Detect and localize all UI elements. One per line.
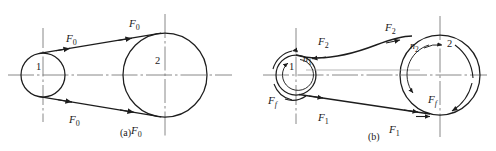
friction-arc-ff-2a-b xyxy=(455,45,473,78)
panel-a: F0 F0 F0 F0 1 2 (a) xyxy=(8,14,232,139)
force-arrow-lower-left-a xyxy=(58,100,72,102)
force-label-b-3: F1 xyxy=(388,123,400,138)
panel-caption-a: (a) xyxy=(120,127,131,139)
force-label-b-0: F2 xyxy=(317,35,329,50)
force-label-a-0: F0 xyxy=(65,32,77,47)
friction-label-b-right: Ff xyxy=(427,93,439,108)
force-label-a-1: F0 xyxy=(128,17,140,32)
panel-b: n1 n2 F2 F2 F1 F1 Ff Ff 1 2 (b) xyxy=(263,16,487,143)
belt-lower-a xyxy=(39,97,161,117)
friction-arc-ff-1c-b xyxy=(285,96,306,100)
friction-arc-ff-2b-b xyxy=(452,83,472,111)
rotation-label-n1-b: n1 xyxy=(303,53,312,67)
friction-label-b-left: Ff xyxy=(267,94,279,109)
pulley-1-label-b: 1 xyxy=(289,61,294,72)
belt-drive-figure: F0 F0 F0 F0 1 2 (a) xyxy=(0,0,496,151)
force-label-a-3: F0 xyxy=(130,124,142,139)
friction-arc-ff-1b-b xyxy=(274,84,292,100)
force-label-b-1: F2 xyxy=(384,21,396,36)
belt-slack-side-b xyxy=(296,36,412,58)
panel-caption-b: (b) xyxy=(368,131,380,143)
pulley-1-label-a: 1 xyxy=(36,61,41,72)
force-label-a-2: F0 xyxy=(68,113,80,128)
pulley-2-label-b: 2 xyxy=(447,38,452,49)
rotation-arc-n2-upper-b xyxy=(424,45,442,48)
force-arrow-upper-left-a xyxy=(56,48,70,50)
pulley-2-label-a: 2 xyxy=(155,55,160,66)
figure-canvas: F0 F0 F0 F0 1 2 (a) xyxy=(0,0,496,151)
force-arrow-lower-right-a xyxy=(120,110,134,112)
force-label-b-2: F1 xyxy=(317,111,329,126)
